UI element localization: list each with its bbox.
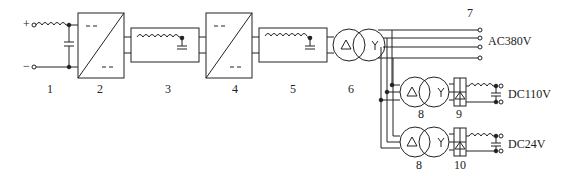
block-label-2: 2 — [97, 82, 103, 97]
dc-dc-converter-2 — [78, 13, 124, 78]
rectifier-9 — [454, 78, 466, 106]
lc-filter-5 — [259, 28, 327, 62]
block-label-9: 9 — [456, 107, 462, 122]
dc-filter-9 — [466, 84, 503, 105]
block-label-10: 10 — [454, 158, 466, 173]
block-label-5: 5 — [290, 82, 296, 97]
input-lc-filter — [32, 23, 78, 70]
rectifier-10 — [454, 128, 466, 156]
transformer-6 — [333, 29, 385, 61]
transformer-8-lower — [400, 127, 449, 157]
block-label-7: 7 — [467, 6, 473, 21]
output-ac380v-label: AC380V — [488, 34, 531, 49]
transformer-8-upper — [400, 77, 449, 107]
circuit-diagram — [0, 0, 562, 176]
block-label-8-lower: 8 — [416, 158, 422, 173]
inverter-4 — [206, 13, 252, 78]
output-dc110v-label: DC110V — [508, 87, 551, 102]
block-label-3: 3 — [165, 82, 171, 97]
input-plus-label: + — [23, 17, 30, 32]
input-minus-label: − — [23, 59, 30, 74]
block-label-4: 4 — [232, 82, 238, 97]
block-label-6: 6 — [348, 82, 354, 97]
block-label-1: 1 — [47, 82, 53, 97]
dc-filter-10 — [466, 134, 503, 154]
lc-filter-3 — [131, 28, 199, 62]
block-label-8-upper: 8 — [418, 107, 424, 122]
output-dc24v-label: DC24V — [508, 137, 545, 152]
